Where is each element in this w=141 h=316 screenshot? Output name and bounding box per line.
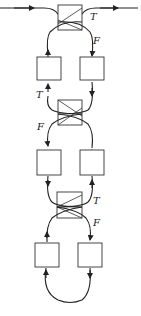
bottom-loop (45, 268, 90, 303)
delay-box-row1-left (37, 57, 61, 80)
switch-2 (48, 82, 93, 156)
delay-box-row2-left (37, 150, 61, 175)
delay-box-row1-right (80, 57, 104, 80)
delay-box-row3-right (78, 243, 102, 267)
switch-2-false-label: F (36, 121, 45, 132)
delay-box-row2-right (80, 150, 104, 175)
switch-1 (47, 5, 92, 58)
delay-box-row3-left (35, 243, 59, 267)
switch-2-true-label: T (36, 89, 44, 100)
switch-3-true-label: T (93, 195, 101, 206)
switch-3 (47, 176, 93, 242)
switch-1-true-label: T (90, 11, 98, 22)
switch-1-false-label: F (92, 35, 101, 46)
switch-chain-diagram: T F T F T F (0, 0, 141, 316)
switch-3-false-label: F (92, 217, 101, 228)
